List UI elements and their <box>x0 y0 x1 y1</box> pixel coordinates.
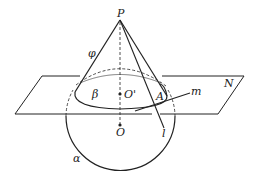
label-o-prime: O' <box>124 88 136 101</box>
label-m: m <box>191 85 201 98</box>
label-o: O <box>116 126 125 139</box>
label-l: l <box>162 127 166 140</box>
label-n: N <box>223 77 234 90</box>
label-p: P <box>116 7 125 20</box>
sphere-alpha <box>66 69 175 171</box>
point-o-prime <box>118 92 121 95</box>
geometry-diagram: P φ β O' A m N O l α <box>0 0 254 196</box>
label-beta: β <box>91 88 98 101</box>
label-a: A <box>155 90 164 103</box>
label-phi: φ <box>88 47 96 60</box>
line-l <box>120 20 164 128</box>
label-alpha: α <box>73 152 81 165</box>
